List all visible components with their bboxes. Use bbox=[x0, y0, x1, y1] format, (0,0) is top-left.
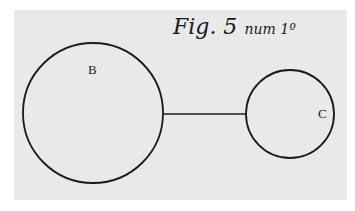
figure-title-sub: num 1º bbox=[244, 21, 295, 37]
figure-title: Fig. 5 num 1º bbox=[173, 14, 296, 39]
label-b: B bbox=[88, 62, 97, 78]
figure-title-main: Fig. 5 bbox=[173, 14, 237, 39]
label-c: C bbox=[318, 106, 327, 122]
